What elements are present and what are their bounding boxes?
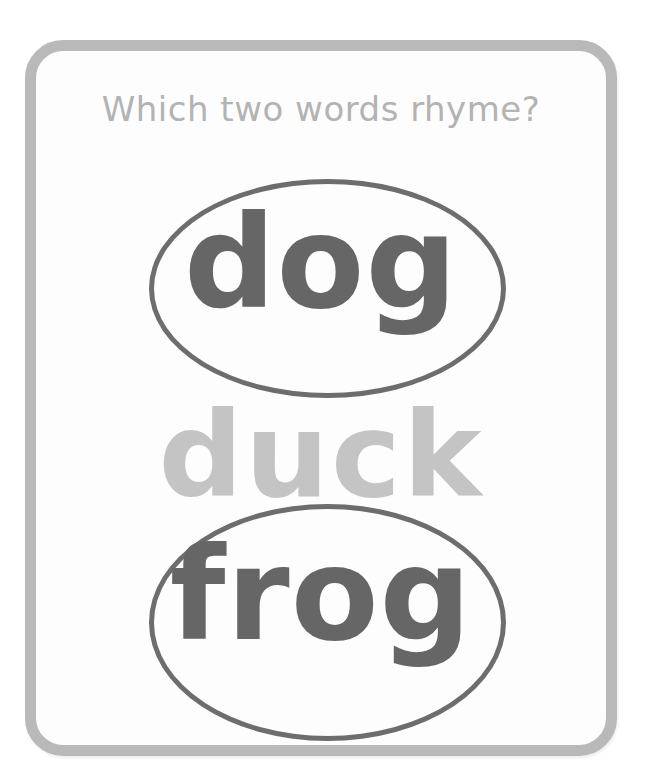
word-option-duck[interactable]: duck (36, 396, 606, 514)
word-option-frog[interactable]: frog (36, 531, 606, 659)
word-option-dog[interactable]: dog (36, 199, 606, 327)
rhyme-quiz-card: Which two words rhyme? dog duck frog (25, 40, 617, 756)
question-text: Which two words rhyme? (36, 89, 606, 129)
